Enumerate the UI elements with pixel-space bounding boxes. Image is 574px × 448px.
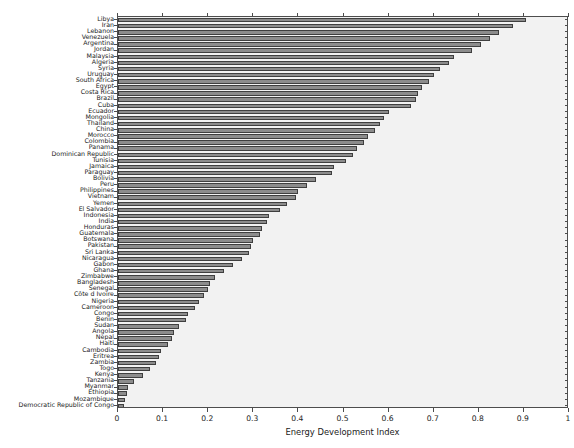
bar-series xyxy=(118,17,567,407)
bar xyxy=(118,226,262,230)
y-axis-tick xyxy=(565,197,568,198)
y-axis-tick xyxy=(114,301,117,302)
y-axis-tick xyxy=(114,313,117,314)
bar-row xyxy=(118,171,567,175)
bar xyxy=(118,367,150,371)
y-axis-tick xyxy=(565,184,568,185)
bar xyxy=(118,208,280,212)
y-axis-tick xyxy=(565,191,568,192)
x-axis-tick-label: 1 xyxy=(566,414,571,423)
bar xyxy=(118,251,249,255)
y-axis-tick xyxy=(565,350,568,351)
y-axis-tick xyxy=(114,331,117,332)
bar-row xyxy=(118,373,567,377)
x-axis-tick xyxy=(343,408,344,412)
bar-row xyxy=(118,379,567,383)
bar xyxy=(118,153,353,157)
bar-row xyxy=(118,36,567,40)
bar xyxy=(118,79,429,83)
x-axis-tick xyxy=(117,408,118,412)
bar xyxy=(118,232,260,236)
y-axis-tick xyxy=(114,387,117,388)
y-axis-tick xyxy=(565,374,568,375)
y-axis-tick xyxy=(114,203,117,204)
y-axis-tick xyxy=(114,19,117,20)
y-axis-tick xyxy=(114,25,117,26)
bar xyxy=(118,116,384,120)
y-axis-tick xyxy=(114,252,117,253)
bar-row xyxy=(118,122,567,126)
y-axis-tick xyxy=(114,135,117,136)
x-axis-tick-top xyxy=(433,13,434,17)
bar-row xyxy=(118,330,567,334)
y-axis-tick xyxy=(114,325,117,326)
y-axis-tick xyxy=(114,227,117,228)
y-axis-tick xyxy=(114,215,117,216)
y-axis-tick xyxy=(114,117,117,118)
y-axis-tick xyxy=(565,172,568,173)
y-axis-tick xyxy=(114,80,117,81)
bar-row xyxy=(118,336,567,340)
y-axis-tick xyxy=(565,166,568,167)
bar-row xyxy=(118,263,567,267)
bar xyxy=(118,146,357,150)
bar xyxy=(118,244,251,248)
y-axis-tick xyxy=(114,374,117,375)
bar xyxy=(118,165,334,169)
y-axis-tick xyxy=(114,99,117,100)
bar xyxy=(118,379,134,383)
bar-row xyxy=(118,355,567,359)
y-axis-tick xyxy=(114,338,117,339)
bar xyxy=(118,183,307,187)
bar-row xyxy=(118,116,567,120)
bar-row xyxy=(118,202,567,206)
y-axis-tick xyxy=(114,319,117,320)
y-axis-tick xyxy=(114,399,117,400)
x-axis-tick-label: 0.8 xyxy=(472,414,484,423)
y-axis-tick xyxy=(565,301,568,302)
y-axis-tick xyxy=(565,93,568,94)
y-axis-tick xyxy=(114,344,117,345)
bar xyxy=(118,263,233,267)
bar xyxy=(118,287,208,291)
bar-row xyxy=(118,30,567,34)
y-axis-labels: LibyaIranLebanonVenezuelaArgentinaJordan… xyxy=(0,16,114,408)
bar xyxy=(118,189,298,193)
y-axis-tick xyxy=(565,356,568,357)
y-axis-tick xyxy=(565,111,568,112)
y-axis-tick xyxy=(114,31,117,32)
bar xyxy=(118,140,364,144)
x-axis-tick-label: 0.3 xyxy=(246,414,258,423)
y-axis-tick xyxy=(114,123,117,124)
y-axis-tick xyxy=(114,148,117,149)
bar xyxy=(118,24,513,28)
bar xyxy=(118,122,380,126)
y-axis-tick xyxy=(114,289,117,290)
y-axis-tick xyxy=(565,252,568,253)
chart-figure: LibyaIranLebanonVenezuelaArgentinaJordan… xyxy=(0,0,574,448)
y-axis-tick xyxy=(565,129,568,130)
y-axis-tick xyxy=(565,325,568,326)
bar-row xyxy=(118,153,567,157)
y-axis-tick xyxy=(114,197,117,198)
y-axis-tick xyxy=(565,142,568,143)
bar-row xyxy=(118,300,567,304)
y-axis-tick xyxy=(114,258,117,259)
y-axis-tick xyxy=(114,37,117,38)
bar xyxy=(118,257,242,261)
bar-row xyxy=(118,251,567,255)
y-axis-tick xyxy=(114,221,117,222)
y-axis-tick xyxy=(565,209,568,210)
bar xyxy=(118,275,215,279)
y-axis-tick xyxy=(114,50,117,51)
x-axis-tick-label: 0.5 xyxy=(336,414,348,423)
y-axis-tick xyxy=(565,74,568,75)
bar xyxy=(118,42,481,46)
y-axis-tick xyxy=(114,264,117,265)
y-axis-tick xyxy=(565,99,568,100)
y-axis-tick xyxy=(565,240,568,241)
bar-row xyxy=(118,349,567,353)
y-axis-tick xyxy=(565,31,568,32)
x-axis-tick xyxy=(433,408,434,412)
x-axis-tick-label: 0.6 xyxy=(382,414,394,423)
